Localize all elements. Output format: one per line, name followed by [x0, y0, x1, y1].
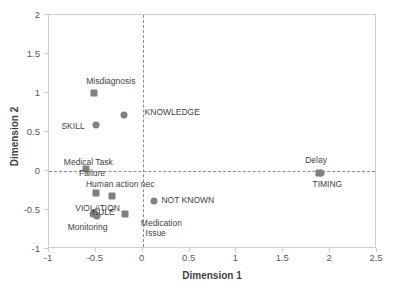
x-axis-title: Dimension 1	[48, 270, 376, 281]
x-tick-mark	[329, 248, 330, 252]
label-rule: RULE	[92, 207, 115, 217]
x-tick-label: 2.5	[369, 252, 382, 263]
x-tick-mark	[376, 248, 377, 252]
y-axis-title: Dimension 2	[9, 77, 20, 197]
x-tick-label: 0.5	[182, 252, 195, 263]
x-tick-label: -1	[44, 252, 52, 263]
x-tick-mark	[48, 248, 49, 252]
x-tick-mark	[142, 248, 143, 252]
data-point-marker[interactable]	[92, 189, 99, 196]
label-medication-issue-line1: Medication	[141, 218, 182, 228]
y-tick-label: 1.5	[27, 48, 40, 59]
label-knowledge: KNOWLEDGE	[145, 107, 200, 117]
label-medication-issue-line2: Issue	[146, 228, 166, 238]
data-point-marker[interactable]	[108, 192, 115, 199]
data-point-marker[interactable]	[121, 210, 128, 217]
x-tick-label: 1.5	[276, 252, 289, 263]
label-monitoring: Monitoring	[68, 222, 108, 232]
scatter-chart: Dimension 2 Dimension 1 -1-0.500.511.52 …	[0, 0, 396, 294]
x-tick-label: 2	[326, 252, 331, 263]
label-timing: TIMING	[312, 179, 342, 189]
label-not-known: NOT KNOWN	[161, 195, 214, 205]
x-tick-label: 0	[139, 252, 144, 263]
y-tick-label: -0.5	[24, 204, 40, 215]
zero-line-vertical	[143, 15, 144, 247]
x-tick-mark	[95, 248, 96, 252]
label-medical-task-failure-line2: Failure	[79, 168, 105, 178]
x-tick-mark	[235, 248, 236, 252]
data-point-marker[interactable]	[150, 197, 157, 204]
label-medical-task-failure-line1: Medical Task	[64, 157, 113, 167]
label-misdiagnosis: Misdiagnosis	[86, 76, 135, 86]
x-tick-mark	[189, 248, 190, 252]
data-point-marker[interactable]	[92, 121, 99, 128]
y-tick-label: 0.5	[27, 126, 40, 137]
y-tick-label: 0	[35, 165, 40, 176]
x-tick-label: -0.5	[87, 252, 103, 263]
data-point-marker[interactable]	[317, 169, 324, 176]
data-point-marker[interactable]	[120, 111, 127, 118]
x-tick-mark	[282, 248, 283, 252]
data-point-marker[interactable]	[90, 90, 97, 97]
y-tick-label: -1	[32, 243, 40, 254]
label-human-action-nec: Human action nec	[86, 179, 155, 189]
label-skill: SKILL	[61, 121, 84, 131]
x-tick-label: 1	[233, 252, 238, 263]
y-tick-label: 1	[35, 87, 40, 98]
label-delay: Delay	[305, 155, 327, 165]
plot-area: MisdiagnosisKNOWLEDGESKILLMedical TaskFa…	[48, 14, 376, 248]
y-tick-label: 2	[35, 9, 40, 20]
